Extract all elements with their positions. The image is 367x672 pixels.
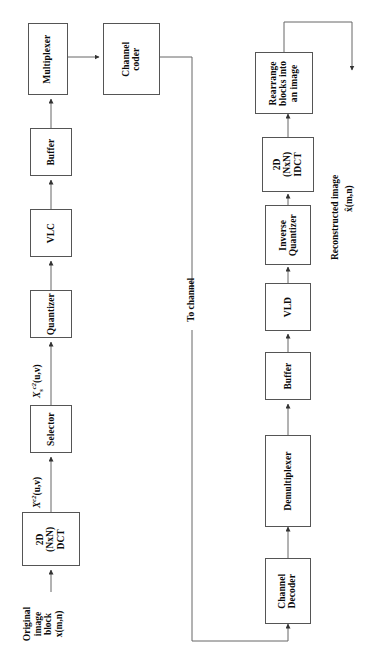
line-channel-upper [160,57,192,290]
block-selector[interactable]: Selector [30,405,72,453]
block-channel-coder[interactable]: Channel coder [103,23,160,95]
block-channel-decoder[interactable]: Channel Decoder [265,558,311,624]
block-vld[interactable]: VLD [265,283,311,331]
block-multiplexer[interactable]: Multiplexer [28,23,68,95]
block-channel-coder-label: Channel coder [121,41,142,76]
block-dct[interactable]: 2D (NxN) DCT [22,512,80,566]
block-rearrange-label: Rearrange blocks into an image [269,60,300,105]
signal-label-dct-out: Xc2(u,v) [30,477,43,508]
block-inverse-quantizer[interactable]: Inverse Quantizer [265,205,311,265]
block-demultiplexer[interactable]: Demultiplexer [265,435,311,527]
block-vlc[interactable]: VLC [30,209,72,257]
block-channel-decoder-label: Channel Decoder [278,573,299,608]
block-vlc-label: VLC [46,223,56,243]
output-label-line2: x̂(m,n) [344,185,355,212]
block-idct-label: 2D (NxN) IDCT [273,152,304,177]
block-inverse-quantizer-label: Inverse Quantizer [278,214,299,256]
block-encoder-buffer-label: Buffer [46,139,56,166]
block-demultiplexer-label: Demultiplexer [283,451,293,510]
signal-label-selector-out: Xsc2(u,v) [30,364,44,398]
block-rearrange[interactable]: Rearrange blocks into an image [255,52,313,114]
block-encoder-buffer[interactable]: Buffer [30,128,72,176]
channel-label: To channel [186,278,197,322]
block-selector-label: Selector [46,412,56,446]
block-decoder-buffer[interactable]: Buffer [265,352,311,400]
block-quantizer-label: Quantizer [46,293,56,335]
block-quantizer[interactable]: Quantizer [30,290,72,338]
block-vld-label: VLD [283,297,293,317]
block-decoder-buffer-label: Buffer [283,363,293,390]
input-label: Original image block x(m,n) [22,588,65,660]
block-idct[interactable]: 2D (NxN) IDCT [262,137,314,192]
block-diagram: 2D (NxN) DCT Selector Quantizer VLC Buff… [0,0,367,672]
block-multiplexer-label: Multiplexer [43,34,53,83]
block-dct-label: 2D (NxN) DCT [36,526,67,551]
output-label-line1: Reconstructed image [330,175,341,260]
